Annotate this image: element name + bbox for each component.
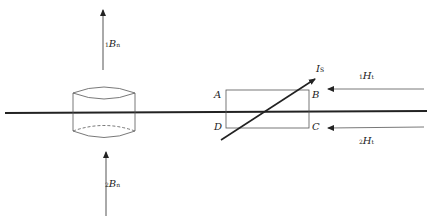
label-h-bottom-post: t	[372, 138, 374, 145]
label-b-bottom-post: n	[116, 181, 120, 188]
label-b-bottom: 2Bn	[105, 179, 120, 190]
label-current-post: S	[320, 66, 324, 73]
label-b-top-post: n	[116, 41, 120, 48]
label-h-bottom: 2Ht	[359, 136, 374, 147]
label-h-top-main: H	[363, 70, 372, 81]
label-h-top: 1Ht	[359, 71, 374, 82]
h-bottom-arrow	[328, 127, 424, 128]
diagram-canvas: 1Bn 2Bn IS 1Ht 2Ht A B C D	[0, 0, 427, 221]
diagram-svg	[0, 0, 427, 221]
label-corner-a: A	[214, 90, 221, 100]
label-h-bottom-main: H	[363, 135, 372, 146]
label-h-top-post: t	[372, 73, 374, 80]
main-axis-line	[5, 111, 427, 113]
current-arrow	[221, 79, 315, 140]
label-corner-c: C	[312, 122, 320, 132]
label-current: IS	[316, 64, 324, 75]
label-corner-d: D	[214, 122, 222, 132]
label-corner-b: B	[312, 90, 319, 100]
label-b-top: 1Bn	[105, 39, 120, 50]
